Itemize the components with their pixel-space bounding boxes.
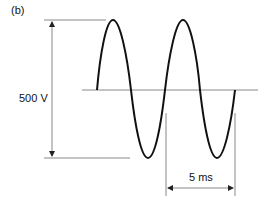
sine-wave-diagram	[0, 0, 258, 201]
